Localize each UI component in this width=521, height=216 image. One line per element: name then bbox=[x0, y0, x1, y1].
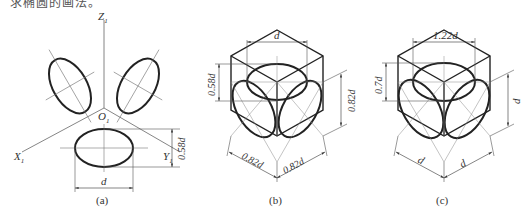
label-dim-top-c: 1.22d bbox=[433, 29, 458, 41]
label-dim-bottom-left-c: d bbox=[416, 153, 427, 166]
label-origin: O1 bbox=[98, 110, 109, 125]
caption-c: (c) bbox=[436, 194, 449, 207]
ellipse-bottom bbox=[60, 124, 148, 172]
isometric-ellipse-diagram: Z1 O1 X1 Y1 d 0.58d (a) d 0.58d bbox=[0, 0, 521, 216]
caption-a: (a) bbox=[96, 194, 109, 207]
label-y: Y1 bbox=[163, 150, 173, 165]
label-dim-left-b: 0.58d bbox=[206, 73, 217, 97]
label-dim-bottom-right-c: d bbox=[457, 156, 468, 169]
caption-b: (b) bbox=[269, 194, 282, 207]
dim-bottom-right-c bbox=[444, 152, 492, 178]
label-z: Z1 bbox=[98, 10, 108, 25]
label-dim-right-c: d bbox=[510, 98, 521, 104]
figure-b: d 0.58d 0.82d 0.82d 0.82d (b) bbox=[206, 29, 357, 207]
label-dim-058d: 0.58d bbox=[176, 137, 187, 161]
figure-c: 1.22d 0.7d d d d (c) bbox=[373, 29, 521, 207]
label-x: X1 bbox=[13, 150, 24, 165]
label-dim-left-c: 0.7d bbox=[373, 76, 384, 95]
label-dim-right-b: 0.82d bbox=[346, 89, 357, 113]
figure-a: Z1 O1 X1 Y1 d 0.58d (a) bbox=[13, 10, 187, 207]
label-dim-top-b: d bbox=[274, 29, 280, 41]
label-dim-bottom-left-b: 0.82d bbox=[240, 150, 266, 171]
label-dim-bottom-right-b: 0.82d bbox=[281, 155, 307, 176]
label-dim-d: d bbox=[101, 175, 107, 187]
